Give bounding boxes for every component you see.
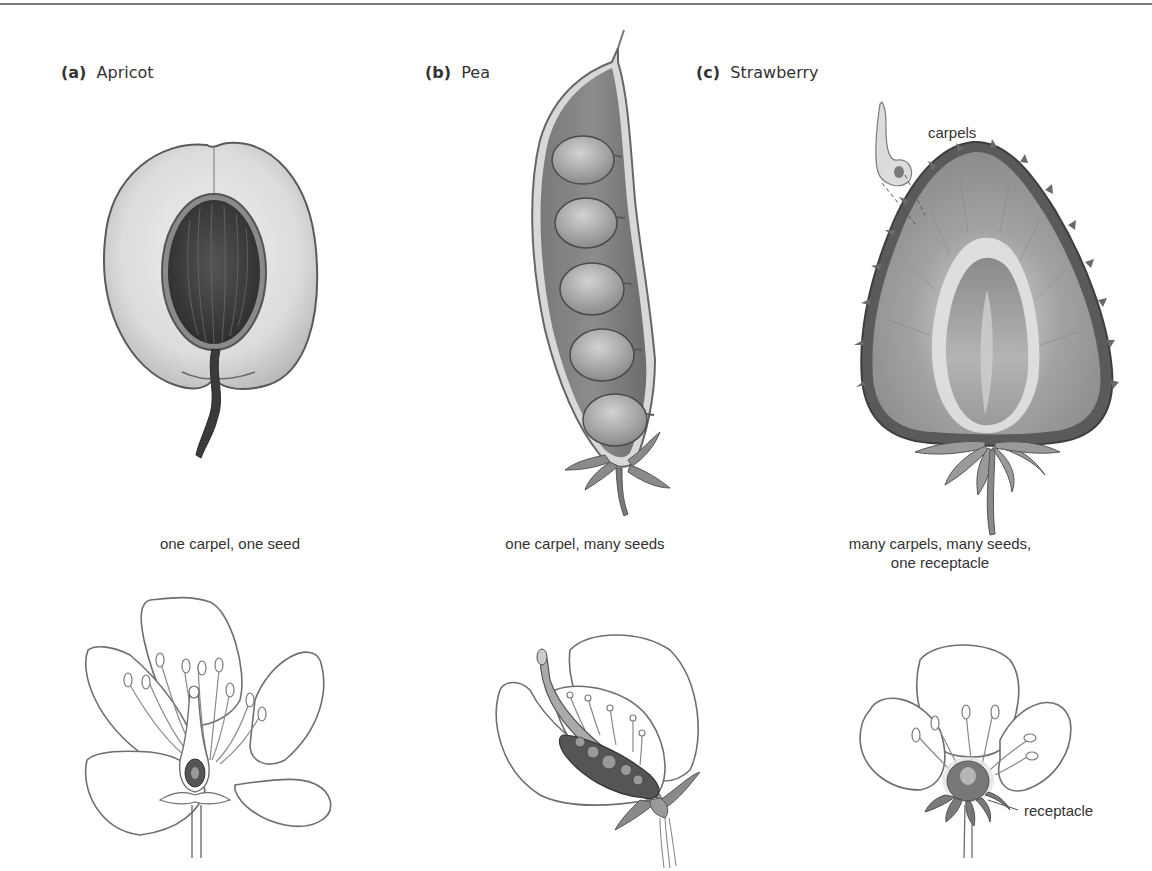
- apricot-fruit-illustration: [104, 143, 317, 458]
- illustrations: [0, 0, 1152, 871]
- strawberry-illustration: [854, 139, 1119, 535]
- pea-pod-illustration: [532, 30, 670, 516]
